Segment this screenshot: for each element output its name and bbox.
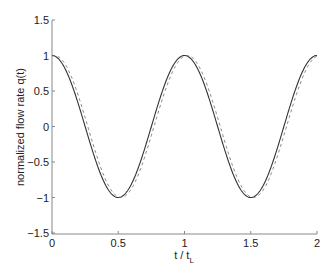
y-tick-label: −0.5: [27, 156, 49, 168]
y-tick-label: 1: [43, 50, 49, 62]
y-tick-label: 1.5: [34, 14, 49, 26]
x-axis-label: t / tL: [174, 249, 194, 265]
series-group: [52, 56, 317, 198]
y-axis-label: normalized flow rate q(t): [14, 68, 26, 186]
x-tick-label: 0.5: [111, 237, 126, 249]
line-chart: 00.511.52−1.5−1−0.500.511.5 t / tL norma…: [0, 0, 334, 277]
x-tick-label: 0: [49, 237, 55, 249]
ticks: 00.511.52−1.5−1−0.500.511.5: [27, 14, 320, 249]
y-tick-label: −1: [36, 192, 49, 204]
series-solid: [52, 56, 317, 198]
x-tick-label: 1: [181, 237, 187, 249]
y-tick-label: 0.5: [34, 85, 49, 97]
axes: [52, 20, 317, 234]
y-tick-label: 0: [43, 121, 49, 133]
x-tick-label: 1.5: [243, 237, 258, 249]
x-tick-label: 2: [314, 237, 320, 249]
series-dashed: [52, 56, 317, 198]
y-tick-label: −1.5: [27, 227, 49, 239]
